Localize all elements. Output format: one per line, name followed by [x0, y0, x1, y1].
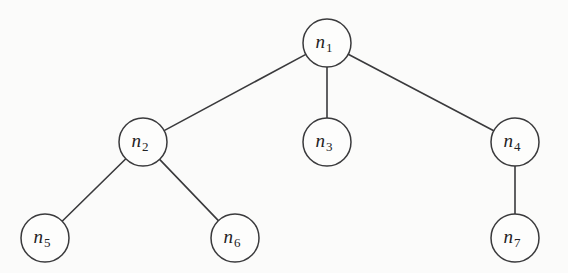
node-n7[interactable]: n7: [491, 214, 539, 262]
node-n1[interactable]: n1: [303, 19, 351, 67]
node-n5[interactable]: n5: [21, 214, 69, 262]
node-n4[interactable]: n4: [491, 118, 539, 166]
tree-diagram: n1n2n3n4n5n6n7: [0, 0, 568, 273]
edge-n2-n6: [160, 159, 219, 220]
node-layer: n1n2n3n4n5n6n7: [21, 19, 539, 262]
edge-n1-n4: [348, 54, 494, 131]
diagram-canvas: n1n2n3n4n5n6n7: [0, 0, 568, 273]
node-n3[interactable]: n3: [303, 118, 351, 166]
edge-n2-n5: [62, 159, 126, 221]
node-n2[interactable]: n2: [119, 118, 167, 166]
node-n6[interactable]: n6: [211, 214, 259, 262]
edge-n1-n2: [164, 54, 306, 130]
